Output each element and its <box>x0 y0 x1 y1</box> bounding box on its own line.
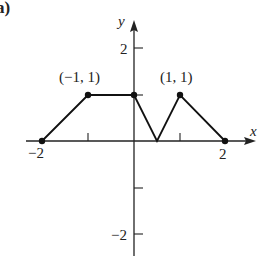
point-0-1 <box>131 92 137 98</box>
point-neg2-0 <box>39 138 45 144</box>
x-tick-label-neg2: −2 <box>28 145 44 161</box>
point-label-1-1: (1, 1) <box>160 69 193 86</box>
x-axis-label: x <box>249 123 257 139</box>
panel-label: a) <box>0 0 10 17</box>
point-1-1 <box>177 92 183 98</box>
y-axis-label: y <box>116 13 125 29</box>
function-graph: a) x y −2 2 2 −2 (−1, 1) (1, 1) <box>0 0 271 264</box>
y-tick-label-2: 2 <box>120 41 128 57</box>
point-label-neg1-1: (−1, 1) <box>59 69 100 86</box>
x-tick-label-2: 2 <box>219 146 227 162</box>
point-neg1-1 <box>85 92 91 98</box>
point-2-0 <box>222 138 228 144</box>
y-tick-label-neg2: −2 <box>111 227 127 243</box>
